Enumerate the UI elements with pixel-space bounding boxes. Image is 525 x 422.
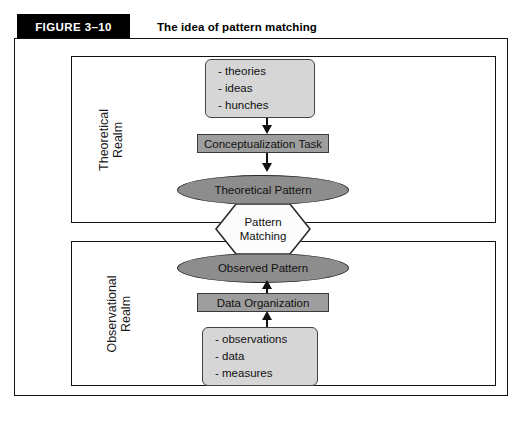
theoretical-realm-label-wrap: Theoretical Realm [72,57,495,222]
observational-realm-label: Observational Realm [105,275,133,352]
figure-title: The idea of pattern matching [157,14,317,39]
figure-number-badge: FIGURE 3–10 [17,14,130,39]
theoretical-realm-label: Theoretical Realm [97,109,125,171]
figure-header: FIGURE 3–10 The idea of pattern matching [17,14,494,39]
observational-realm-label-wrap: Observational Realm [72,242,495,385]
figure-outer-frame: Theoretical Realm Observational Realm - … [14,38,508,396]
theoretical-realm-box: Theoretical Realm [71,56,496,223]
observational-realm-box: Observational Realm [71,241,496,386]
